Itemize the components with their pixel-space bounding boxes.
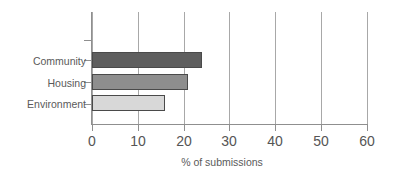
y-axis-line [91,12,92,125]
x-tick-label-10: 10 [118,133,158,149]
category-label-community: Community [33,55,86,67]
category-label-housing: Housing [47,77,86,89]
x-tick-label-50: 50 [301,133,341,149]
bar-housing [92,74,188,90]
bar-environment [92,95,165,111]
x-tick-label-20: 20 [164,133,204,149]
x-axis-line [92,124,368,125]
x-axis-title: % of submissions [0,156,394,168]
category-labels: Community Housing Environment [0,0,86,181]
gridline-20 [184,12,185,124]
x-tick-50 [321,125,322,131]
gridline-60 [367,12,368,124]
x-axis-title-text: % of submissions [181,156,263,168]
gridline-30 [229,12,230,124]
x-tick-label-30: 30 [209,133,249,149]
bar-chart: Community Housing Environment 0 10 20 30… [0,0,394,181]
category-label-environment: Environment [27,98,86,110]
x-tick-0 [92,125,93,131]
x-tick-10 [138,125,139,131]
x-tick-30 [229,125,230,131]
x-tick-label-60: 60 [347,133,387,149]
x-tick-40 [275,125,276,131]
x-tick-60 [367,125,368,131]
gridline-50 [321,12,322,124]
x-tick-label-0: 0 [72,133,112,149]
x-tick-20 [184,125,185,131]
x-tick-label-40: 40 [255,133,295,149]
gridline-40 [275,12,276,124]
bar-community [92,52,202,68]
plot-area [92,12,367,124]
